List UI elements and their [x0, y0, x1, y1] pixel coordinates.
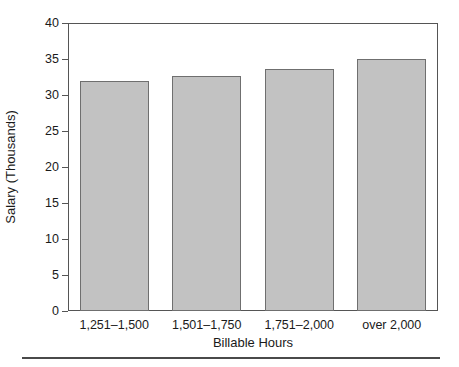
y-axis-title: Salary (Thousands) [0, 23, 22, 311]
bar [357, 59, 426, 311]
y-axis-tick-label: 30 [45, 89, 59, 102]
y-axis-tick-label: 20 [45, 161, 59, 174]
y-axis-tick-label: 25 [45, 125, 59, 138]
bar [172, 76, 241, 311]
bar [80, 81, 149, 311]
x-axis-tick-labels: 1,251–1,5001,501–1,7501,751–2,000over 2,… [68, 316, 438, 334]
bottom-divider-rule [22, 357, 440, 359]
y-axis-tick-label: 0 [52, 305, 59, 318]
y-axis-tick-label: 35 [45, 53, 59, 66]
y-axis-tick-label: 5 [52, 269, 59, 282]
x-axis-tick-label: over 2,000 [346, 316, 439, 334]
bar-chart-figure: 0510152025303540 Salary (Thousands) 1,25… [0, 0, 459, 367]
y-axis-tick [62, 311, 68, 312]
x-axis-tick-label: 1,251–1,500 [68, 316, 161, 334]
y-axis-tick-label: 15 [45, 197, 59, 210]
y-axis-tick-label: 40 [45, 17, 59, 30]
bars-group [68, 23, 438, 311]
bar [265, 69, 334, 311]
x-axis-title: Billable Hours [68, 335, 438, 351]
y-axis-tick-label: 10 [45, 233, 59, 246]
x-axis-tick-label: 1,751–2,000 [253, 316, 346, 334]
x-axis-tick-label: 1,501–1,750 [161, 316, 254, 334]
